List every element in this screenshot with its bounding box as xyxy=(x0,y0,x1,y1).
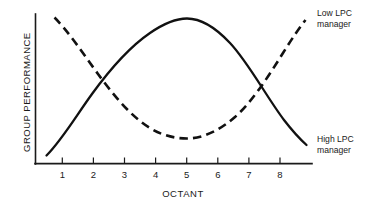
series-label-high-lpc: High LPC manager xyxy=(317,134,354,157)
x-tick-label-8: 8 xyxy=(277,169,282,180)
x-axis-ticks xyxy=(62,158,280,164)
series-label-high-lpc-line2: manager xyxy=(317,145,354,156)
curve-high-lpc-manager xyxy=(55,18,306,139)
x-axis-tick-labels: 1 2 3 4 5 6 7 8 xyxy=(60,169,283,180)
x-axis-title: OCTANT xyxy=(162,188,204,199)
chart-figure: 1 2 3 4 5 6 7 8 OCTANT GROUP PERFORMANCE… xyxy=(0,0,374,209)
x-tick-label-7: 7 xyxy=(246,169,251,180)
x-tick-label-5: 5 xyxy=(184,169,189,180)
x-tick-label-3: 3 xyxy=(122,169,127,180)
y-axis-title: GROUP PERFORMANCE xyxy=(22,32,32,152)
series-label-high-lpc-line1: High LPC xyxy=(317,134,354,145)
x-tick-label-6: 6 xyxy=(215,169,220,180)
x-tick-label-1: 1 xyxy=(60,169,65,180)
series-label-low-lpc-line2: manager xyxy=(317,19,352,30)
series-label-low-lpc-line1: Low LPC xyxy=(317,8,352,19)
x-tick-label-2: 2 xyxy=(91,169,96,180)
curve-low-lpc-manager xyxy=(47,19,307,156)
chart-plot-area: 1 2 3 4 5 6 7 8 OCTANT xyxy=(0,0,374,209)
series-label-low-lpc: Low LPC manager xyxy=(317,8,352,31)
x-tick-label-4: 4 xyxy=(153,169,158,180)
